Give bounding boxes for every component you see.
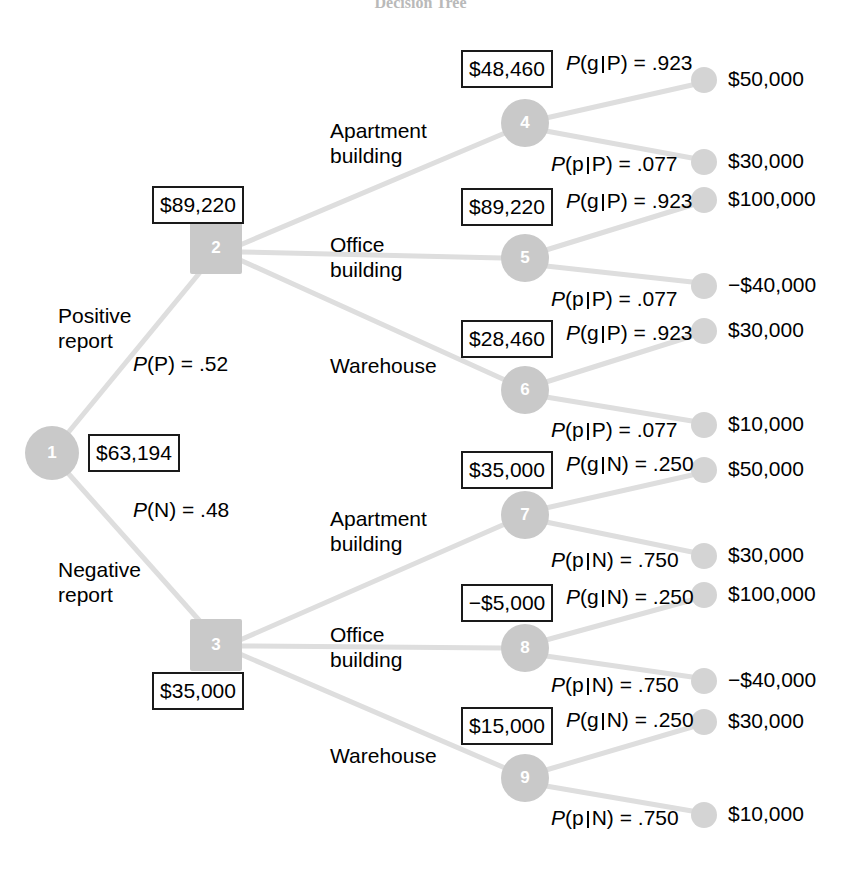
tree-node-9[interactable]: 9 — [501, 754, 549, 802]
probability-label-p-g-P-5: P(gP) = .923 — [566, 189, 693, 213]
probability-label-p-positive: P(P) = .52 — [133, 352, 228, 376]
ev-box-node-8: −$5,000 — [461, 584, 553, 622]
ev-box-node-3: $35,000 — [152, 672, 244, 710]
tree-edge-5-t4 — [546, 266, 692, 282]
tree-node-label: 6 — [520, 380, 529, 400]
branch-label-office-building-upper: Office building — [330, 232, 402, 282]
decision-tree-figure: Decision Tree 123456789$48,460$89,220$89… — [0, 0, 841, 874]
tree-node-label: 2 — [211, 238, 220, 258]
tree-node-5[interactable]: 5 — [501, 234, 549, 282]
probability-label-p-g-N-8: P(gN) = .250 — [566, 585, 694, 609]
tree-node-6[interactable]: 6 — [501, 366, 549, 414]
payoff-t8: $30,000 — [728, 543, 804, 567]
payoff-t6: $10,000 — [728, 412, 804, 436]
terminal-node-t11 — [691, 709, 717, 735]
branch-label-office-building-lower: Office building — [330, 622, 402, 672]
ev-box-node-9: $15,000 — [461, 707, 553, 745]
terminal-node-t8 — [691, 543, 717, 569]
probability-label-p-p-P-5: P(pP) = .077 — [551, 287, 678, 311]
figure-title: Decision Tree — [0, 0, 841, 12]
terminal-node-t1 — [691, 67, 717, 93]
probability-label-p-g-P-4: P(gP) = .923 — [566, 51, 693, 75]
terminal-node-t10 — [691, 668, 717, 694]
tree-node-label: 3 — [211, 635, 220, 655]
payoff-t7: $50,000 — [728, 457, 804, 481]
probability-label-p-p-N-7: P(pN) = .750 — [551, 548, 679, 572]
ev-box-node-7: $35,000 — [461, 451, 553, 489]
payoff-t9: $100,000 — [728, 582, 816, 606]
terminal-node-t7 — [691, 457, 717, 483]
tree-node-7[interactable]: 7 — [501, 491, 549, 539]
terminal-node-t2 — [691, 149, 717, 175]
branch-label-apartment-building-upper: Apartment building — [330, 118, 427, 168]
tree-node-label: 1 — [47, 443, 56, 463]
probability-label-p-p-P-4: P(pP) = .077 — [551, 152, 678, 176]
payoff-t4: −$40,000 — [728, 273, 816, 297]
ev-box-node-4: $48,460 — [461, 50, 553, 88]
ev-box-node-2: $89,220 — [152, 186, 244, 224]
probability-label-p-g-N-9: P(gN) = .250 — [566, 708, 694, 732]
branch-label-apartment-building-lower: Apartment building — [330, 506, 427, 556]
tree-node-4[interactable]: 4 — [501, 99, 549, 147]
terminal-node-t3 — [691, 187, 717, 213]
tree-node-3[interactable]: 3 — [190, 619, 242, 671]
ev-box-node-5: $89,220 — [461, 188, 553, 226]
payoff-t2: $30,000 — [728, 149, 804, 173]
branch-label-warehouse-upper: Warehouse — [330, 353, 437, 378]
ev-box-node-6: $28,460 — [461, 320, 553, 358]
probability-label-p-negative: P(N) = .48 — [133, 498, 229, 522]
probability-label-p-g-N-7: P(gN) = .250 — [566, 452, 694, 476]
payoff-t5: $30,000 — [728, 318, 804, 342]
probability-label-p-p-N-8: P(pN) = .750 — [551, 673, 679, 697]
branch-label-positive-report: Positive report — [58, 303, 132, 353]
tree-edge-4-t1 — [546, 85, 692, 118]
branch-label-warehouse-lower: Warehouse — [330, 743, 437, 768]
tree-node-label: 5 — [520, 248, 529, 268]
payoff-t1: $50,000 — [728, 67, 804, 91]
tree-edge-9-t11 — [546, 727, 692, 770]
tree-node-2[interactable]: 2 — [190, 222, 242, 274]
tree-node-label: 7 — [520, 505, 529, 525]
tree-node-label: 9 — [520, 768, 529, 788]
payoff-t11: $30,000 — [728, 709, 804, 733]
probability-label-p-g-P-6: P(gP) = .923 — [566, 321, 693, 345]
ev-box-node-1: $63,194 — [88, 434, 180, 472]
payoff-t12: $10,000 — [728, 802, 804, 826]
terminal-node-t9 — [691, 582, 717, 608]
tree-node-1[interactable]: 1 — [25, 426, 79, 480]
terminal-node-t4 — [691, 273, 717, 299]
probability-label-p-p-P-6: P(pP) = .077 — [551, 418, 678, 442]
tree-node-8[interactable]: 8 — [501, 624, 549, 672]
payoff-t3: $100,000 — [728, 187, 816, 211]
branch-label-negative-report: Negative report — [58, 557, 141, 607]
terminal-node-t6 — [691, 412, 717, 438]
probability-label-p-p-N-9: P(pN) = .750 — [551, 806, 679, 830]
tree-node-label: 8 — [520, 638, 529, 658]
tree-edge-7-t7 — [546, 475, 692, 508]
tree-node-label: 4 — [520, 113, 529, 133]
payoff-t10: −$40,000 — [728, 668, 816, 692]
terminal-node-t12 — [691, 802, 717, 828]
terminal-node-t5 — [691, 318, 717, 344]
